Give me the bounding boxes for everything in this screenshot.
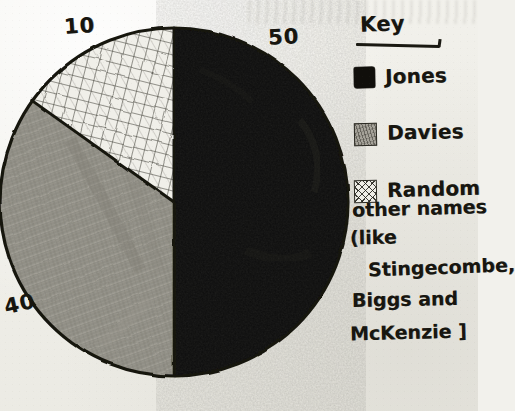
- chart-legend: Key Jones Davies Random other names (lik…: [344, 12, 478, 36]
- legend-label-davies: Davies: [387, 119, 464, 144]
- legend-note-line-2: (like: [350, 237, 397, 239]
- legend-title: Key: [360, 11, 406, 37]
- legend-note-line-1: other names: [352, 206, 487, 211]
- gray-shaded-swatch: [354, 123, 377, 146]
- pie-slice-jones: [174, 28, 348, 376]
- legend-note-line-3: Stingecombe,: [368, 264, 515, 270]
- legend-item-davies: Davies: [354, 120, 464, 146]
- legend-note-line-4: Biggs and: [352, 298, 458, 301]
- legend-label-jones: Jones: [385, 63, 447, 89]
- pie-value-label-jones: 50: [267, 24, 299, 50]
- pie-value-label-random: 10: [63, 13, 96, 39]
- legend-note-line-5: McKenzie ]: [350, 330, 467, 334]
- solid-black-swatch: [354, 67, 375, 88]
- legend-item-jones: Jones: [354, 64, 447, 88]
